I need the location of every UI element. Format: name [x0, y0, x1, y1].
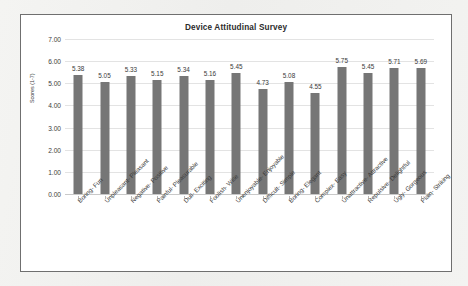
y-axis-tick-label: 4.00 [48, 102, 61, 109]
y-axis-tick-label: 2.00 [48, 146, 61, 153]
bar-value-label: 4.55 [309, 83, 321, 90]
y-axis-tick-label: 5.00 [48, 80, 61, 87]
plot-area: 0.001.002.003.004.005.006.007.00 5.385.0… [65, 39, 434, 194]
y-axis-tick-label: 3.00 [48, 124, 61, 131]
bar-value-label: 5.38 [72, 65, 84, 72]
bar-value-label: 5.75 [336, 57, 348, 64]
bar-value-label: 5.16 [204, 70, 216, 77]
bar-value-label: 5.45 [230, 63, 242, 70]
bar-value-label: 5.15 [151, 70, 163, 77]
bar-value-label: 5.33 [125, 66, 137, 73]
bar-value-label: 5.05 [98, 72, 110, 79]
chart-title: Device Attitudinal Survey [21, 23, 451, 32]
bar-slot: 5.05 [91, 39, 117, 194]
x-axis-category-labels: Boring- FunUnpleasant- PleasantNegative-… [65, 196, 434, 272]
bar-value-label: 4.73 [256, 79, 268, 86]
chart-frame: Device Attitudinal Survey Scores (1-7) 0… [20, 14, 452, 272]
bar[interactable] [100, 82, 109, 194]
bar-slot: 5.16 [197, 39, 223, 194]
bar-slot: 5.38 [65, 39, 91, 194]
bar-value-label: 5.69 [415, 58, 427, 65]
y-axis-tick-label: 7.00 [48, 36, 61, 43]
bar-value-label: 5.34 [177, 66, 189, 73]
bar-value-label: 5.08 [283, 72, 295, 79]
bar-slot: 5.45 [223, 39, 249, 194]
y-axis-tick-label: 0.00 [48, 191, 61, 198]
y-axis-title: Scores (1-7) [29, 73, 35, 103]
bar-value-label: 5.71 [388, 58, 400, 65]
y-axis-tick-label: 6.00 [48, 58, 61, 65]
bar-value-label: 5.45 [362, 63, 374, 70]
bar[interactable] [74, 75, 83, 194]
bar-series: 5.385.055.335.155.345.165.454.735.084.55… [65, 39, 434, 194]
y-axis-tick-label: 1.00 [48, 168, 61, 175]
